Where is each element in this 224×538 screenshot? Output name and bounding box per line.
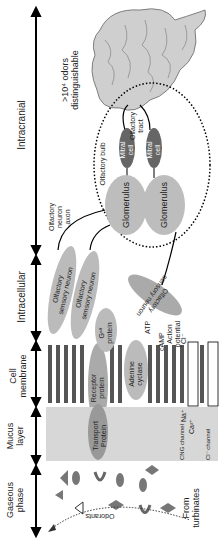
odorants-label: Odorants (80, 512, 120, 520)
odor-count: >10⁴ odors (60, 40, 70, 120)
chloride-label: Cl⁻ (180, 328, 188, 344)
layer-label-gaseous: Gaseous phase (5, 475, 25, 525)
atp-label: ATP (144, 314, 152, 334)
cl-channel-label: Cl⁻ channel (204, 416, 212, 460)
cng-channel-label: CNG channel (178, 416, 186, 460)
distinguishable-label: distinguishable (70, 40, 80, 120)
turbinates-label: From turbinates (181, 483, 201, 533)
g-protein-label: Gᵒˡᶠ protein (98, 315, 114, 351)
mitral-cell-label-1: Mitral cell (119, 135, 135, 165)
mitral-cell-label-2: Mitral cell (146, 135, 162, 165)
receptor-protein-label: Receptor protein (90, 368, 106, 408)
axon-label: Olfactory neuron axon (48, 197, 72, 237)
brain-note: >10⁴ odors distinguishable (60, 40, 80, 120)
olfactory-bulb-label: Olfactory bulb (99, 129, 107, 199)
transport-protein-label: Transport Protein (92, 416, 108, 456)
layer-label-intracellular: Intracellular (17, 257, 27, 337)
glomerulus-label-2: Glomerulus (159, 175, 169, 235)
adenine-cyclase-label: Adenine cyclase (128, 354, 144, 394)
layer-label-cell-membrane: Cell membrane (8, 346, 28, 406)
calcium-label: Ca²⁺ (188, 414, 196, 434)
glomerulus-label-1: Glomerulus (121, 175, 131, 235)
diagram-graphics (0, 0, 224, 538)
camp-label: cAMP (158, 327, 166, 351)
layer-label-intracranial: Intracranial (17, 85, 27, 165)
layer-label-mucus: Mucus layer (5, 411, 25, 461)
